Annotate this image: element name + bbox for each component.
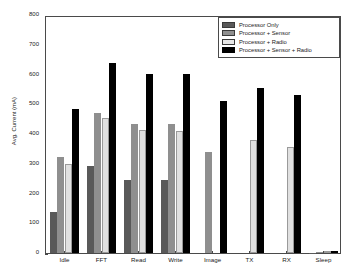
x-axis-tick-label: Write: [168, 256, 182, 263]
bar: [139, 130, 146, 253]
legend-swatch: [222, 30, 235, 36]
bar: [183, 74, 190, 253]
bar-group: Read: [124, 15, 154, 253]
x-axis-tick-mark: [286, 251, 287, 254]
x-axis-tick-label: Read: [131, 256, 146, 263]
bar: [146, 74, 153, 253]
x-axis-tick-label: FFT: [96, 256, 107, 263]
legend-item-label: Processor + Sensor + Radio: [239, 46, 312, 54]
bar: [220, 101, 227, 253]
bar: [168, 124, 175, 253]
legend-item: Processor + Sensor: [222, 29, 336, 37]
x-axis-tick-mark: [175, 251, 176, 254]
legend-item: Processor + Radio: [222, 38, 336, 46]
x-axis-tick-mark: [323, 251, 324, 254]
legend-swatch: [222, 39, 235, 45]
legend-item: Processor + Sensor + Radio: [222, 46, 336, 54]
bar: [94, 113, 101, 253]
bar: [331, 251, 338, 253]
x-axis-tick-mark: [101, 251, 102, 254]
bar: [205, 152, 212, 253]
x-axis-tick-label: Image: [204, 256, 221, 263]
y-axis-tick-label: 500: [29, 100, 39, 106]
x-axis-tick-mark: [138, 251, 139, 254]
chart-legend: Processor OnlyProcessor + SensorProcesso…: [218, 17, 340, 58]
x-axis-tick-mark: [64, 251, 65, 254]
bar: [57, 157, 64, 253]
bar: [324, 251, 331, 253]
y-axis-title: Avg. Current (mA): [11, 61, 17, 181]
x-axis-tick-label: RX: [282, 256, 291, 263]
bar: [65, 164, 72, 253]
bar: [309, 253, 316, 254]
bar: [294, 95, 301, 253]
bar: [109, 63, 116, 253]
x-axis-tick-mark: [249, 251, 250, 254]
bar: [161, 180, 168, 253]
legend-item-label: Processor Only: [239, 21, 279, 29]
x-axis-tick-label: Sleep: [316, 256, 332, 263]
bar: [50, 212, 57, 253]
y-axis-tick-label: 100: [29, 219, 39, 225]
legend-swatch: [222, 47, 235, 53]
y-axis-tick-mark: [45, 254, 48, 255]
bar: [102, 118, 109, 253]
bar: [131, 124, 138, 253]
bar: [124, 180, 131, 253]
y-axis-tick-label: 800: [29, 11, 39, 17]
legend-item-label: Processor + Sensor: [239, 29, 290, 37]
bar: [257, 88, 264, 253]
legend-item: Processor Only: [222, 21, 336, 29]
bar-group: Idle: [50, 15, 80, 253]
bar: [287, 147, 294, 254]
bar: [316, 252, 323, 253]
bar: [72, 109, 79, 253]
legend-item-label: Processor + Radio: [239, 38, 287, 46]
y-axis-tick-label: 200: [29, 190, 39, 196]
x-axis-tick-label: Idle: [59, 256, 69, 263]
y-axis-tick-label: 600: [29, 71, 39, 77]
y-axis-tick-label: 300: [29, 160, 39, 166]
y-axis-tick-label: 700: [29, 41, 39, 47]
x-axis-tick-mark: [212, 251, 213, 254]
legend-swatch: [222, 22, 235, 28]
y-axis-tick-label: 0: [36, 249, 39, 255]
x-axis-tick-label: TX: [246, 256, 254, 263]
y-axis-tick-label: 400: [29, 130, 39, 136]
bar-group: FFT: [87, 15, 117, 253]
bar-group: Write: [161, 15, 191, 253]
bar: [87, 166, 94, 253]
bar: [250, 140, 257, 253]
bar-chart-figure: Avg. Current (mA) 0100200300400500600700…: [0, 0, 353, 280]
bar: [176, 131, 183, 253]
